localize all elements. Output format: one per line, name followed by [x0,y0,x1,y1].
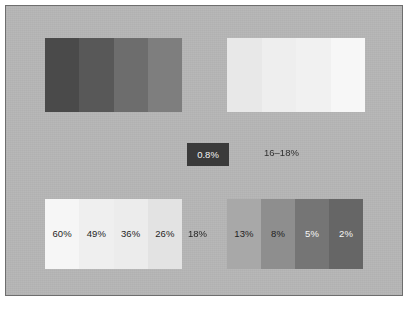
bottom-left-swatch-block: 60% 49% 36% 26% [45,199,182,269]
swatch [262,38,297,112]
swatch [114,38,148,112]
swatch-label: 26% [155,229,174,239]
swatch [296,38,331,112]
swatch [331,38,366,112]
swatch-label: 8% [271,229,285,239]
swatch-label: 36% [121,229,140,239]
swatch [227,38,262,112]
swatch [45,38,79,112]
bottom-right-swatch-block: 13% 8% 5% 2% [227,199,363,269]
figure-panel: 60% 49% 36% 26% 13% 8% 5% 2% 0.8% 16–18%… [5,5,403,296]
swatch: 13% [227,199,261,269]
swatch [148,38,182,112]
top-right-swatch-block [227,38,365,112]
swatch: 49% [79,199,113,269]
dark-callout-box: 0.8% [187,143,229,166]
swatch: 26% [148,199,182,269]
swatch-label: 2% [339,229,353,239]
plain-callout-label: 16–18% [264,148,299,158]
swatch: 60% [45,199,79,269]
swatch [79,38,113,112]
dark-callout-label: 0.8% [197,150,219,160]
swatch: 5% [295,199,329,269]
swatch-label: 5% [305,229,319,239]
gap-percentage-label: 18% [188,229,207,239]
swatch: 8% [261,199,295,269]
swatch-label: 49% [87,229,106,239]
swatch-label: 60% [52,229,71,239]
swatch: 2% [329,199,363,269]
swatch: 36% [114,199,148,269]
swatch-label: 13% [234,229,253,239]
top-left-swatch-block [45,38,182,112]
